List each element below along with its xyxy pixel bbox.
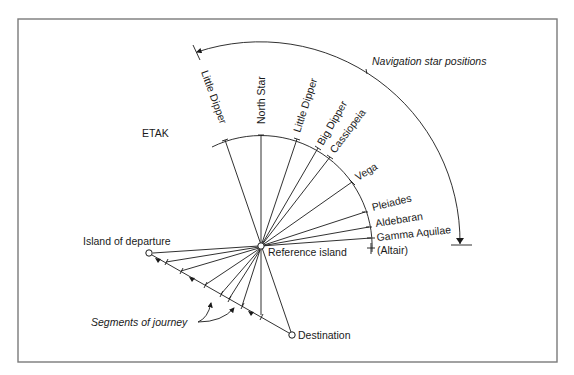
departure-island-point [146,250,152,256]
journey-fan-lines [153,246,260,306]
segments-of-journey-label: Segments of journey [91,316,188,328]
diagram-frame [18,19,557,362]
etak-label: ETAK [142,127,169,139]
reference-island-label: Reference island [268,246,347,258]
navigation-star-positions-label: Navigation star positions [372,55,487,67]
island-of-departure-label: Island of departure [83,235,171,247]
destination-label: Destination [298,329,351,341]
star-bearing-lines [225,135,371,335]
star-label-north-star: North Star [255,76,267,124]
etak-diagram: ETAK Navigation star positions Reference… [0,0,574,375]
arc-start-tick [193,45,200,60]
arc-end-arrowhead [456,238,464,244]
star-label-vega: Vega [353,160,380,183]
star-label-little-dipper-left: Little Dipper [199,69,230,126]
star-ticks [222,135,375,254]
star-label-altair: (Altair) [377,244,408,256]
star-label-pleiades: Pleiades [371,192,413,213]
arc-label-leader [366,69,367,74]
segments-arrows [198,303,234,322]
reference-island-point [258,243,264,249]
star-label-little-dipper-right: Little Dipper [290,76,319,133]
destination-point [289,332,295,338]
